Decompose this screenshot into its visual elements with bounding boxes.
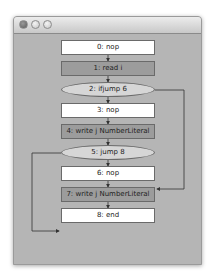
node-4[interactable]: 4: write j NumberLiteral: [61, 124, 155, 139]
node-3[interactable]: 3: nop: [61, 103, 155, 118]
node-2[interactable]: 2: ifjump 6: [61, 82, 155, 97]
node-1[interactable]: 1: read i: [61, 61, 155, 76]
title-bar[interactable]: [14, 17, 201, 34]
node-6[interactable]: 6: nop: [61, 166, 155, 181]
node-8[interactable]: 8: end: [61, 208, 155, 223]
close-button[interactable]: [19, 20, 28, 29]
edge-5-8: [32, 153, 61, 231]
edge-2-6: [155, 90, 184, 189]
app-window: 0: nop 1: read i 2: ifjump 6 3: nop 4: w…: [13, 16, 202, 265]
node-0[interactable]: 0: nop: [61, 40, 155, 55]
maximize-button[interactable]: [43, 20, 52, 29]
flowchart-canvas: 0: nop 1: read i 2: ifjump 6 3: nop 4: w…: [14, 34, 201, 264]
minimize-button[interactable]: [31, 20, 40, 29]
node-7[interactable]: 7: write j NumberLiteral: [61, 187, 155, 202]
node-5[interactable]: 5: jump 8: [61, 145, 155, 160]
